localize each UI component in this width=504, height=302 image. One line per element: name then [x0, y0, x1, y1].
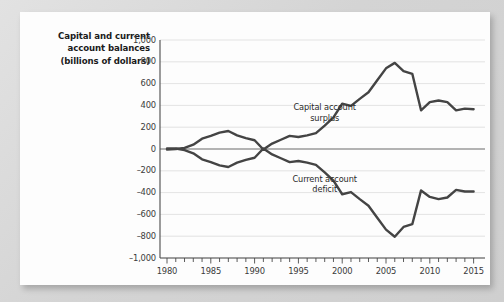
line-chart-svg — [20, 12, 490, 285]
y-axis-tick-label-800: 800 — [112, 56, 156, 66]
x-axis-tick-label-2000: 2000 — [322, 266, 362, 276]
y-axis-tick-label--800: –800 — [112, 231, 156, 241]
y-axis-tick-label--1000: –1,000 — [112, 253, 156, 263]
chart-annotation-line-1: Capital account — [280, 102, 370, 113]
y-axis-tick-label--400: –400 — [112, 187, 156, 197]
y-axis-tick-label-600: 600 — [112, 78, 156, 88]
chart-annotation-capital-account-surplus: Capital accountsurplus — [280, 102, 370, 123]
y-axis-tick-label--200: –200 — [112, 165, 156, 175]
chart-annotation-current-account-deficit: Current accountdeficit — [280, 174, 370, 195]
x-axis-tick-label-1995: 1995 — [278, 266, 318, 276]
chart-annotation-line-2: surplus — [280, 113, 370, 124]
x-axis-tick-label-2010: 2010 — [410, 266, 450, 276]
x-axis-tick-label-1980: 1980 — [147, 266, 187, 276]
x-axis-tick-label-1985: 1985 — [191, 266, 231, 276]
chart-annotation-line-2: deficit — [280, 184, 370, 195]
y-axis-tick-label-200: 200 — [112, 122, 156, 132]
x-axis-tick-label-1990: 1990 — [235, 266, 275, 276]
chart-plot-area: 1,0008006004002000–200–400–600–800–1,000… — [20, 12, 490, 285]
y-axis-tick-label-1000: 1,000 — [112, 35, 156, 45]
y-axis-tick-label-0: 0 — [112, 144, 156, 154]
y-axis-tick-label--600: –600 — [112, 209, 156, 219]
x-axis-tick-label-2005: 2005 — [366, 266, 406, 276]
y-axis-tick-label-400: 400 — [112, 100, 156, 110]
figure-card: Capital and currentaccount balances(bill… — [20, 12, 490, 285]
chart-annotation-line-1: Current account — [280, 174, 370, 185]
x-axis-tick-label-2015: 2015 — [454, 266, 494, 276]
